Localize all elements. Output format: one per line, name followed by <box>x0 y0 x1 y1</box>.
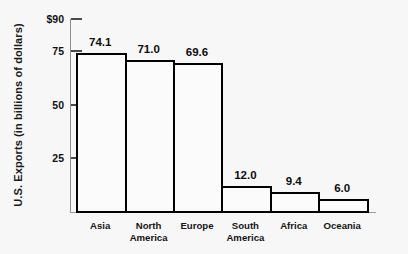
y-tick-label: 50 <box>20 99 64 111</box>
bar-value-label: 74.1 <box>76 36 124 48</box>
y-tick-label: 75 <box>20 45 64 57</box>
bar[interactable] <box>124 60 175 213</box>
bar[interactable] <box>221 186 272 213</box>
bar[interactable] <box>76 53 127 213</box>
bar[interactable] <box>318 199 369 213</box>
y-tick-90 <box>71 18 82 20</box>
bar-value-label: 71.0 <box>124 43 172 55</box>
y-tick-label: 25 <box>20 152 64 164</box>
y-tick-label: $90 <box>20 13 64 25</box>
bar-value-label: 12.0 <box>221 169 269 181</box>
bar-value-label: 69.6 <box>173 46 221 58</box>
bar-value-label: 6.0 <box>318 182 366 194</box>
bar[interactable] <box>173 63 224 213</box>
category-label: Oceania <box>314 220 370 232</box>
bars-layer <box>0 0 408 254</box>
bar[interactable] <box>270 192 321 213</box>
y-tick-75 <box>71 50 82 52</box>
bar-value-label: 9.4 <box>270 175 318 187</box>
bar-chart: U.S. Exports (in billions of dollars) $9… <box>0 0 408 254</box>
y-axis-line <box>70 19 71 213</box>
